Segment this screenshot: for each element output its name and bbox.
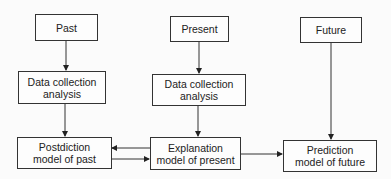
past-box: Past bbox=[35, 14, 98, 41]
present-analysis-box: Data collection analysis bbox=[152, 74, 246, 106]
present-box: Present bbox=[170, 16, 229, 42]
explanation-line1: Explanation bbox=[168, 142, 223, 154]
explanation-box: Explanation model of present bbox=[150, 137, 241, 170]
present-analysis-line2: analysis bbox=[180, 90, 218, 102]
present-analysis-line1: Data collection bbox=[165, 78, 234, 90]
postdiction-box: Postdiction model of past bbox=[17, 137, 112, 169]
postdiction-line2: model of past bbox=[33, 153, 96, 165]
explanation-line2: model of present bbox=[156, 154, 234, 166]
prediction-line1: Prediction bbox=[307, 144, 354, 156]
past-analysis-box: Data collection analysis bbox=[18, 71, 106, 104]
postdiction-line1: Postdiction bbox=[39, 141, 90, 153]
present-label: Present bbox=[181, 23, 217, 35]
prediction-line2: model of future bbox=[295, 156, 365, 168]
past-label: Past bbox=[56, 22, 77, 34]
future-label: Future bbox=[316, 24, 346, 36]
future-box: Future bbox=[300, 17, 362, 43]
past-analysis-line1: Data collection bbox=[28, 76, 97, 88]
past-analysis-line2: analysis bbox=[43, 88, 81, 100]
prediction-box: Prediction model of future bbox=[283, 140, 377, 172]
